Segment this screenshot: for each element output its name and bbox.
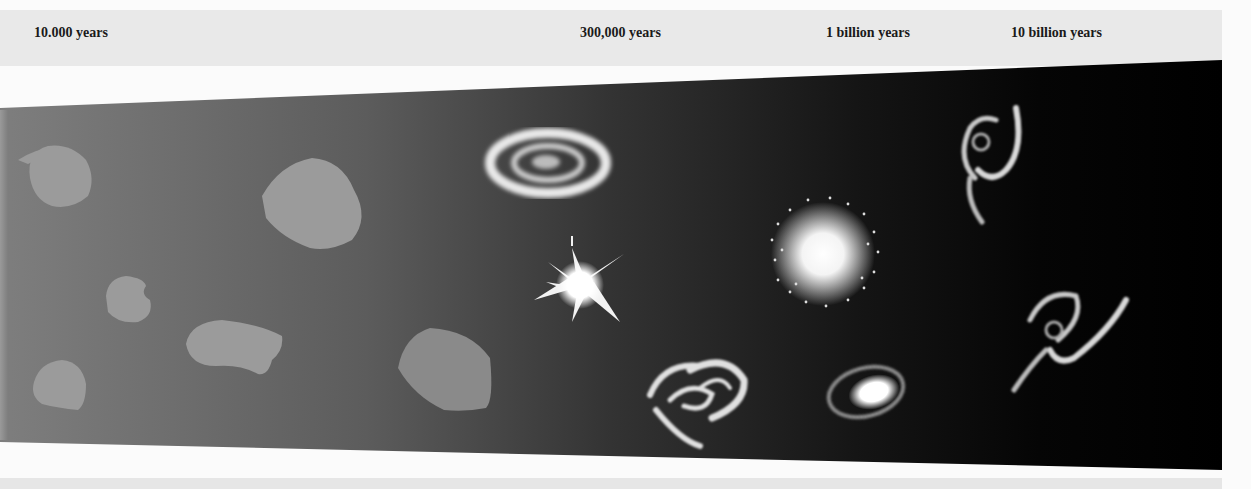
gas-cloud-icon — [106, 276, 151, 322]
band-left-edge — [0, 110, 8, 440]
band-background — [0, 60, 1222, 470]
cosmic-timeline-band — [0, 0, 1251, 489]
timeline-footer-strip — [0, 478, 1222, 489]
